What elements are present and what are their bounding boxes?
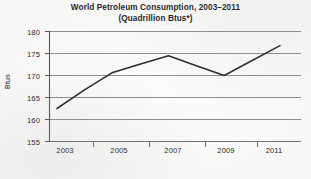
chart-plot-area: Btus 180 175 170 165 160 155 xyxy=(0,0,311,179)
x-tick-label-2005: 2005 xyxy=(99,146,139,155)
x-tick-label-2007: 2007 xyxy=(153,146,193,155)
x-tick-label-2003: 2003 xyxy=(45,146,85,155)
gridlines xyxy=(49,32,301,120)
y-axis-ticks xyxy=(45,32,50,142)
x-tick-label-2009: 2009 xyxy=(206,146,246,155)
x-tick-label-2011: 2011 xyxy=(254,146,294,155)
data-series-line xyxy=(57,46,280,109)
chart-page: World Petroleum Consumption, 2003–2011 (… xyxy=(0,0,311,179)
